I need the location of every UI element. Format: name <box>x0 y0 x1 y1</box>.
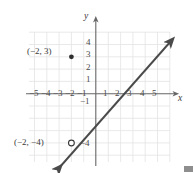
y-tick-label: −1 <box>80 97 90 106</box>
plotted-point-filled <box>69 54 74 59</box>
y-tick-label: 2 <box>86 63 91 72</box>
coordinate-plane-figure: y x −5 −4 −3 −2 −1 1 2 3 4 5 4 3 2 1 −1 … <box>0 0 194 173</box>
x-tick-label: −3 <box>53 89 63 98</box>
plotted-point-open <box>69 140 75 146</box>
x-tick-label: −5 <box>29 89 39 98</box>
point-label-lower: (−2, −4) <box>14 138 44 147</box>
y-axis-label: y <box>84 12 88 22</box>
x-tick-label: −4 <box>41 89 51 98</box>
x-tick-label: 3 <box>127 89 132 98</box>
point-label-upper: (−2, 3) <box>27 47 52 56</box>
x-tick-label: 5 <box>152 89 157 98</box>
y-tick-label: 1 <box>86 75 91 84</box>
y-tick-label: 4 <box>86 38 91 47</box>
x-tick-label: 4 <box>140 89 145 98</box>
x-axis-label: x <box>178 94 182 104</box>
y-tick-label: −4 <box>80 139 90 148</box>
x-tick-label: 2 <box>115 89 120 98</box>
x-tick-label: 1 <box>103 89 108 98</box>
y-tick-label: 3 <box>86 50 91 59</box>
graph-canvas <box>0 0 194 173</box>
corner-artifact <box>184 166 193 172</box>
plotted-line <box>59 41 171 168</box>
x-tick-label: −2 <box>65 89 75 98</box>
